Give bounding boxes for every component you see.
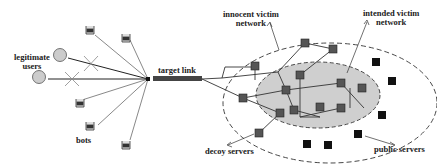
public-server — [324, 141, 332, 149]
server-node — [358, 84, 366, 92]
decoy-servers-label: decoy servers — [205, 147, 254, 156]
server-node — [316, 103, 324, 111]
label-line: users — [14, 62, 50, 71]
bot-icon — [76, 99, 84, 107]
public-server — [303, 140, 311, 148]
bot-icon — [122, 141, 130, 149]
server-node — [255, 129, 263, 137]
label-line: network — [363, 18, 419, 27]
server-node — [251, 62, 259, 70]
bot-icon — [86, 26, 94, 34]
server-node — [329, 45, 337, 53]
hub-node — [146, 77, 150, 81]
label-line: network — [223, 19, 279, 28]
target-link-bar — [153, 76, 202, 81]
bots-label: bots — [76, 136, 91, 145]
legitimate-users-label: legitimate users — [14, 53, 50, 71]
innocent-victim-network-label: innocent victim network — [223, 10, 279, 28]
public-server — [372, 58, 380, 66]
public-servers-label: public servers — [374, 145, 425, 154]
server-node — [290, 106, 298, 114]
intended-victim-network-label: intended victim network — [363, 9, 419, 27]
server-node — [296, 71, 304, 79]
server-node — [276, 109, 284, 117]
bot-icon — [86, 122, 94, 130]
server-node — [282, 86, 290, 94]
public-server — [388, 77, 396, 85]
server-node — [239, 94, 247, 102]
blocked-x-marks — [65, 56, 98, 86]
legitimate-user-2 — [33, 71, 46, 84]
server-node — [301, 39, 309, 47]
server-node — [337, 104, 345, 112]
legitimate-user-1 — [54, 49, 67, 62]
target-link-label: target link — [158, 66, 196, 75]
public-server — [354, 130, 362, 138]
server-node — [337, 79, 345, 87]
public-server — [378, 111, 386, 119]
bot-icon — [122, 34, 130, 42]
